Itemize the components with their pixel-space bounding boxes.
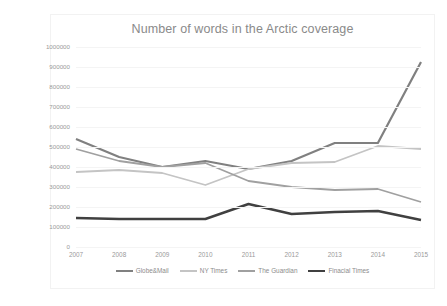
- y-tick-label: 200000: [49, 204, 70, 210]
- x-tick-label: 2008: [112, 252, 126, 258]
- series-line: [76, 62, 421, 169]
- gridline: [76, 87, 421, 88]
- chart-legend: Globe&MailNY TimesThe GuardianFinacial T…: [50, 268, 435, 274]
- legend-swatch-icon: [116, 270, 133, 272]
- y-tick-label: 300000: [49, 184, 70, 190]
- y-tick-label: 0: [67, 244, 70, 250]
- legend-entry[interactable]: Finacial Times: [308, 268, 369, 274]
- legend-entry[interactable]: Globe&Mail: [116, 268, 169, 274]
- legend-entry[interactable]: The Guardian: [238, 268, 297, 274]
- y-tick-label: 100000: [49, 224, 70, 230]
- x-tick-label: 2012: [285, 252, 299, 258]
- x-tick-label: 2015: [414, 252, 428, 258]
- x-tick-label: 2010: [198, 252, 212, 258]
- y-tick-label: 900000: [49, 64, 70, 70]
- legend-swatch-icon: [238, 270, 255, 272]
- x-tick-label: 2013: [328, 252, 342, 258]
- legend-swatch-icon: [308, 270, 325, 272]
- gridline: [76, 127, 421, 128]
- y-tick-label: 500000: [49, 144, 70, 150]
- legend-entry[interactable]: NY Times: [180, 268, 228, 274]
- x-tick-label: 2009: [155, 252, 169, 258]
- gridline: [76, 47, 421, 48]
- gridline: [76, 227, 421, 228]
- chart-title: Number of words in the Arctic coverage: [50, 22, 435, 36]
- plot-area: [76, 47, 421, 247]
- legend-label: NY Times: [200, 268, 228, 274]
- gridline: [76, 207, 421, 208]
- y-axis-labels: 1000000900000800000700000600000500000400…: [16, 47, 70, 247]
- series-line: [76, 149, 421, 202]
- y-tick-label: 600000: [49, 124, 70, 130]
- gridline: [76, 147, 421, 148]
- legend-label: The Guardian: [258, 268, 297, 274]
- y-tick-label: 800000: [49, 84, 70, 90]
- x-tick-label: 2007: [69, 252, 83, 258]
- x-tick-label: 2014: [371, 252, 385, 258]
- y-tick-label: 1000000: [46, 44, 70, 50]
- gridline: [76, 187, 421, 188]
- legend-label: Globe&Mail: [136, 268, 169, 274]
- series-line: [76, 146, 421, 185]
- legend-swatch-icon: [180, 270, 197, 272]
- gridline: [76, 247, 421, 248]
- gridline: [76, 107, 421, 108]
- y-tick-label: 400000: [49, 164, 70, 170]
- x-axis-labels: 200720082009201020112012201320142015: [76, 252, 421, 264]
- x-tick-label: 2011: [242, 252, 256, 258]
- legend-label: Finacial Times: [328, 268, 369, 274]
- gridline: [76, 67, 421, 68]
- gridline: [76, 167, 421, 168]
- y-tick-label: 700000: [49, 104, 70, 110]
